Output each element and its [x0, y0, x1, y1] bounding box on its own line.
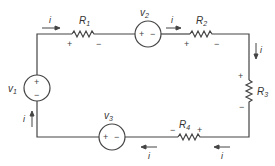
r2-minus: − [214, 39, 219, 49]
v1-label: v1 [8, 83, 17, 95]
v2-plus: + [139, 29, 144, 39]
v3-minus: − [114, 132, 119, 142]
current-arrow-bottom-left-icon [141, 145, 157, 149]
current-label-top-right: i [171, 15, 174, 25]
r4-label: R4 [179, 119, 190, 131]
r1-plus: + [67, 39, 72, 49]
current-arrow-right-icon [254, 43, 258, 59]
v2-label: v2 [140, 7, 149, 19]
current-arrow-top-left-icon [42, 26, 60, 30]
resistor-r2-icon [190, 31, 213, 37]
r2-label: R2 [196, 15, 207, 27]
current-label-left: i [23, 114, 26, 124]
r2-plus: + [184, 39, 189, 49]
current-arrow-bottom-right-icon [214, 145, 230, 149]
v1-minus: − [34, 90, 39, 100]
v1-plus: + [34, 77, 39, 87]
r3-minus: − [239, 102, 244, 112]
current-label-bottom-right: i [221, 151, 224, 161]
r1-label: R1 [79, 15, 90, 27]
v2-minus: − [150, 29, 155, 39]
r3-plus: + [238, 71, 243, 81]
v3-label: v3 [104, 110, 113, 122]
wire-bottom-left [37, 101, 99, 137]
current-arrow-top-right-icon [166, 26, 181, 30]
resistor-r3-icon [246, 80, 252, 103]
circuit-svg: i i i i i i R1 R2 R3 R4 + − + − + − − + … [0, 0, 275, 166]
r4-plus: + [197, 125, 202, 135]
current-label-bottom-left: i [148, 151, 151, 161]
r3-label: R3 [257, 86, 268, 98]
current-arrow-left-icon [30, 111, 34, 127]
circuit-diagram: i i i i i i R1 R2 R3 R4 + − + − + − − + … [0, 0, 275, 166]
current-label-top-left: i [49, 15, 52, 25]
r1-minus: − [96, 39, 101, 49]
resistor-r1-icon [72, 31, 95, 37]
v3-plus: + [103, 132, 108, 142]
current-label-right: i [260, 45, 263, 55]
r4-minus: − [170, 125, 175, 135]
